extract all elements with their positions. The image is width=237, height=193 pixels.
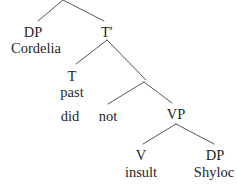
tree-branch-tbar-to-negp [107,40,146,80]
tree-branch-vp-to-dp [176,124,214,144]
tree-node-did: did [61,109,80,124]
tree-branch-negp-to-not [108,82,144,104]
tree-node-dp-subject: DP [24,25,43,40]
tree-node-t-head: T [68,69,77,84]
tree-branch-vp-to-v [143,124,176,144]
tree-node-vp: VP [167,107,186,122]
tree-node-dp-object: DP [206,148,225,163]
tree-node-shylock: Shyloc [194,165,234,180]
tree-branch-root-to-dp [38,0,63,21]
tree-node-insult: insult [125,165,157,180]
tree-node-cordelia: Cordelia [11,41,61,56]
tree-node-t-bar: T′ [101,25,113,40]
tree-branch-tbar-to-t [76,40,107,64]
tree-node-past: past [60,85,83,100]
tree-branch-root-to-tbar [63,0,104,21]
tree-branch-negp-to-vp [144,82,172,103]
tree-node-not: not [99,109,118,124]
tree-node-v-head: V [136,148,146,163]
